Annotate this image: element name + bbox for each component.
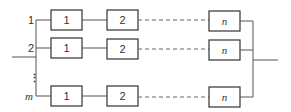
svg-text:1: 1	[63, 42, 69, 54]
svg-text:n: n	[222, 15, 228, 27]
svg-text:n: n	[222, 91, 228, 103]
branch-label: 2	[28, 42, 34, 54]
svg-text:2: 2	[119, 43, 125, 55]
svg-text:1: 1	[63, 90, 69, 102]
svg-text:2: 2	[119, 14, 125, 26]
ellipsis: ⋮	[29, 72, 40, 84]
branch-2: 2 1 2 n	[28, 38, 253, 60]
branch-label: 1	[28, 14, 34, 26]
svg-text:1: 1	[63, 14, 69, 26]
parallel-series-diagram: 1 1 2 n 2 1 2 n ⋮ m 1 2 n	[0, 0, 291, 112]
svg-text:n: n	[222, 44, 228, 56]
branch-label: m	[25, 90, 33, 102]
branch-m: m 1 2 n	[25, 86, 253, 107]
branch-1: 1 1 2 n	[28, 10, 253, 31]
svg-text:2: 2	[119, 90, 125, 102]
